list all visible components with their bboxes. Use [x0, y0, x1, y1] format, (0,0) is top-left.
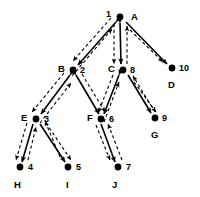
edge-A-D [126, 22, 167, 64]
node-dot-I[interactable] [65, 164, 72, 171]
node-label-F: F [87, 113, 93, 123]
node-dot-G[interactable] [152, 115, 159, 122]
edge-A-B-dashed-back [72, 29, 112, 76]
edge-B-F [76, 74, 105, 114]
node-number-C: 8 [130, 66, 135, 75]
edge-B-F-dashed-out [82, 74, 105, 112]
node-label-A: A [131, 12, 138, 22]
edge-A-C [114, 23, 127, 64]
node-label-J: J [112, 180, 117, 190]
node-number-G: 9 [162, 114, 167, 123]
edge-F-J-dashed-back [108, 124, 122, 160]
edge-C-G [128, 75, 156, 113]
edge-B-E-dashed-out [32, 73, 64, 112]
edge-A-B-solid [78, 22, 116, 65]
node-dot-E[interactable] [33, 116, 40, 123]
node-label-C: C [108, 64, 115, 74]
node-number-H: 4 [28, 163, 33, 172]
edge-E-I-solid [40, 124, 65, 162]
edge-E-H-dashed-out [16, 123, 27, 160]
edge-A-D-solid [126, 22, 167, 64]
node-label-D: D [168, 80, 175, 90]
tree-traversal-diagram: A B C D E F G H I J 1 2 8 10 3 6 9 4 5 7 [0, 0, 200, 197]
node-number-B: 2 [80, 66, 85, 75]
edge-B-E [32, 73, 71, 123]
nodes-layer [17, 14, 176, 171]
node-dot-B[interactable] [70, 67, 77, 74]
edge-E-I [40, 121, 71, 162]
node-dot-F[interactable] [98, 116, 105, 123]
node-label-I: I [66, 180, 69, 190]
edge-E-I-dashed-back [45, 121, 60, 157]
node-label-E: E [21, 113, 27, 123]
edge-C-F-solid [104, 75, 119, 114]
node-number-E: 3 [44, 115, 49, 124]
edge-B-F-solid [76, 75, 99, 114]
edge-F-J [96, 124, 122, 162]
edge-B-E-solid [41, 75, 70, 114]
edge-A-B-dashed-out [73, 18, 111, 61]
edge-E-H [16, 123, 36, 162]
edge-C-G-dashed-out [134, 82, 156, 112]
node-dot-H[interactable] [17, 164, 24, 171]
node-label-B: B [58, 64, 65, 74]
edges-layer [16, 18, 167, 162]
node-number-I: 5 [76, 163, 81, 172]
edge-E-H-solid [22, 124, 33, 162]
edge-C-G-solid [128, 75, 151, 113]
edge-A-D-dashed [130, 30, 163, 62]
node-dot-C[interactable] [120, 67, 127, 74]
node-dot-J[interactable] [115, 164, 122, 171]
edge-C-F-dashed-out [98, 75, 113, 113]
edge-E-H-dashed-back [28, 127, 36, 160]
node-dot-A[interactable] [117, 14, 124, 21]
node-label-G: G [151, 130, 158, 140]
node-number-J: 7 [126, 163, 131, 172]
node-dot-D[interactable] [169, 65, 176, 72]
node-number-A: 1 [106, 10, 111, 19]
node-number-D: 10 [179, 64, 189, 73]
node-label-H: H [14, 180, 21, 190]
edge-A-C-solid [120, 23, 121, 64]
node-number-F: 6 [109, 115, 114, 124]
